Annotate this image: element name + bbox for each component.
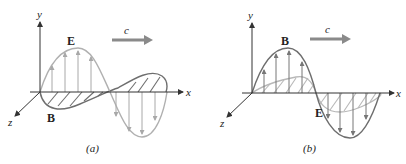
z-axis-label-b: z xyxy=(219,117,225,129)
b-label-b: B xyxy=(281,34,289,48)
x-axis-label-b: x xyxy=(395,87,401,99)
caption-b: (b) xyxy=(303,142,316,155)
y-axis-label-a: y xyxy=(36,8,42,20)
y-axis-label-b: y xyxy=(247,9,253,21)
panel-b: y x z B E c (b) xyxy=(219,9,401,155)
z-axis-label-a: z xyxy=(7,116,13,128)
x-axis-label-a: x xyxy=(185,86,191,98)
panel-a: y x z E B c (a) xyxy=(7,8,191,155)
b-label-a: B xyxy=(47,111,55,125)
e-label-b: E xyxy=(315,106,323,120)
velocity-label-a: c xyxy=(124,24,129,36)
em-wave-diagram: y x z E B c (a) xyxy=(0,0,406,164)
velocity-label-b: c xyxy=(325,23,330,35)
velocity-arrow-b xyxy=(310,34,351,44)
velocity-arrow-a xyxy=(112,35,153,45)
e-label-a: E xyxy=(67,34,75,48)
caption-a: (a) xyxy=(86,142,99,155)
